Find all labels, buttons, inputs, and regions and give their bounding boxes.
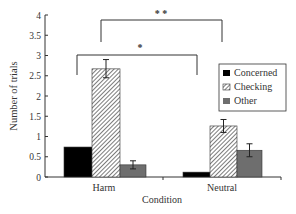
y-tick-label: 0.5 (29, 152, 41, 162)
legend-swatch-other (223, 98, 230, 104)
y-tick-label: 3 (36, 51, 41, 61)
bar-neutral-checking (210, 126, 237, 177)
bar-harm-checking (92, 69, 120, 177)
y-tick-label: 4 (36, 11, 41, 21)
bar-harm-concerned (64, 147, 92, 177)
x-category-label-neutral: Neutral (207, 182, 237, 193)
y-tick-label: 1 (36, 132, 41, 142)
y-tick-label: 1.5 (29, 112, 41, 122)
legend: Concerned Checking Other (219, 64, 286, 111)
bar-chart: Number of trials 00.511.522.533.54 * * *… (0, 0, 296, 214)
legend-label-checking: Checking (234, 81, 272, 92)
legend-swatch-checking (223, 84, 230, 90)
legend-swatch-concerned (223, 70, 230, 76)
significance-bracket-upper: * * (101, 8, 222, 42)
y-axis-label: Number of trials (8, 61, 19, 130)
y-tick-label: 3.5 (29, 31, 41, 41)
x-axis-label: Condition (142, 194, 182, 205)
y-tick-label: 2 (36, 92, 41, 102)
significance-label-upper: * * (155, 8, 168, 19)
bar-neutral-concerned (183, 172, 210, 177)
y-tick-label: 0 (36, 173, 41, 183)
legend-label-concerned: Concerned (234, 67, 277, 78)
legend-label-other: Other (234, 95, 257, 106)
significance-label-lower: * (138, 42, 143, 53)
y-tick-label: 2.5 (29, 71, 41, 81)
x-category-label-harm: Harm (93, 182, 116, 193)
